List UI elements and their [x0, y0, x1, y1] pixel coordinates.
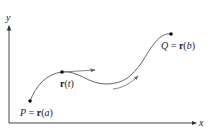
middle-param: t [68, 78, 71, 89]
start-vec: r [37, 107, 41, 118]
label-middle-point: r(t) [60, 79, 74, 89]
end-eq: = [171, 40, 177, 51]
end-point-name: Q [161, 40, 168, 51]
label-end-point: Q = r(b) [161, 41, 195, 51]
y-axis-label: y [6, 13, 10, 23]
label-start-point: P = r(a) [20, 108, 53, 118]
start-point-name: P [20, 107, 26, 118]
end-param: b [187, 40, 192, 51]
point-q [169, 32, 173, 36]
middle-vec: r [60, 78, 64, 89]
point-rt [60, 70, 64, 74]
tangent-vector-arrow [62, 70, 95, 72]
curve-path [30, 34, 171, 101]
x-axis-label: x [199, 118, 203, 128]
start-param: a [45, 107, 50, 118]
start-eq: = [29, 107, 35, 118]
end-vec: r [179, 40, 183, 51]
point-p [28, 99, 32, 103]
